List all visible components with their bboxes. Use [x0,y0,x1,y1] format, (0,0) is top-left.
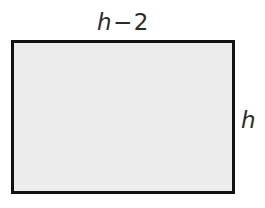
height-label-variable: h [241,107,256,133]
rectangle-figure: h−2 h [0,0,265,208]
rectangle-shape [11,40,235,194]
width-label-number: 2 [134,9,149,35]
height-label: h [241,107,256,133]
width-label-variable: h [97,9,112,35]
width-label: h−2 [11,9,235,35]
width-label-operator: − [112,9,134,35]
